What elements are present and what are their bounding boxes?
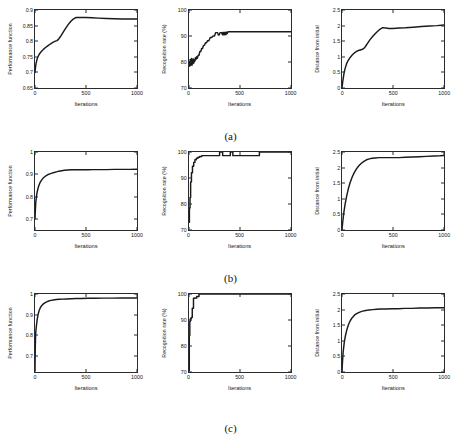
y-tick-label: 90 [181, 175, 187, 181]
y-tick-mark [35, 72, 38, 73]
y-tick-label: 0.5 [333, 69, 340, 75]
y-tick-mark [134, 72, 137, 73]
figure-row-b: 0.70.80.9105001000 Performance function … [0, 142, 461, 272]
x-tick-mark [290, 227, 291, 230]
x-tick-mark [35, 369, 36, 372]
y-tick-mark [134, 174, 137, 175]
x-axis-label-b3: Iterations [341, 243, 445, 249]
y-tick-mark [342, 309, 345, 310]
y-tick-label: 0.65 [23, 85, 33, 91]
plot-area-c1: 0.70.80.9105001000 [34, 293, 138, 373]
x-tick-mark [137, 152, 138, 155]
x-tick-label: 1000 [131, 374, 143, 380]
y-tick-mark [441, 25, 444, 26]
y-tick-label: 2 [337, 307, 340, 313]
y-axis-label-c1: Performance function [7, 293, 19, 373]
curve-svg-a1 [35, 10, 137, 88]
y-axis-label-a3: Distance from initial [314, 9, 326, 89]
x-tick-mark [137, 10, 138, 13]
x-tick-mark [35, 227, 36, 230]
x-tick-label: 1000 [285, 90, 297, 96]
x-axis-label-c3: Iterations [341, 385, 445, 391]
x-tick-mark [188, 152, 189, 155]
x-tick-mark [393, 10, 394, 13]
x-tick-mark [393, 227, 394, 230]
x-tick-label: 500 [82, 374, 91, 380]
y-tick-mark [35, 355, 38, 356]
x-tick-label: 1000 [131, 232, 143, 238]
x-tick-label: 0 [34, 90, 37, 96]
y-tick-label: 100 [178, 291, 187, 297]
y-tick-label: 1 [337, 196, 340, 202]
y-tick-mark [342, 340, 345, 341]
data-curve [35, 17, 137, 72]
y-tick-mark [342, 25, 345, 26]
data-curve [189, 32, 291, 66]
subplot-c1: 0.70.80.9105001000 Performance function … [0, 284, 154, 402]
x-tick-mark [188, 227, 189, 230]
x-tick-mark [342, 369, 343, 372]
x-tick-label: 1000 [438, 374, 450, 380]
y-tick-mark [288, 204, 291, 205]
y-tick-mark [134, 41, 137, 42]
y-tick-label: 100 [178, 7, 187, 13]
y-tick-label: 1 [30, 291, 33, 297]
x-axis-label-b1: Iterations [34, 243, 138, 249]
y-tick-mark [134, 56, 137, 57]
x-tick-mark [239, 369, 240, 372]
x-tick-mark [342, 294, 343, 297]
y-tick-label: 0.75 [23, 54, 33, 60]
y-tick-mark [441, 214, 444, 215]
x-tick-mark [290, 294, 291, 297]
x-tick-mark [239, 227, 240, 230]
subplot-a2: 70809010005001000 Recognition rate (%) I… [154, 0, 308, 118]
x-tick-label: 0 [341, 232, 344, 238]
y-tick-mark [342, 41, 345, 42]
y-tick-mark [441, 41, 444, 42]
y-tick-mark [189, 62, 192, 63]
x-tick-mark [188, 294, 189, 297]
x-tick-mark [239, 294, 240, 297]
y-tick-label: 2.5 [333, 149, 340, 155]
plot-area-b1: 0.70.80.9105001000 [34, 151, 138, 231]
y-tick-mark [134, 335, 137, 336]
x-tick-mark [35, 294, 36, 297]
plot-area-a1: 0.650.70.750.80.850.905001000 [34, 9, 138, 89]
y-tick-mark [189, 320, 192, 321]
x-tick-mark [342, 227, 343, 230]
y-tick-mark [134, 196, 137, 197]
subplot-b3: 00.511.522.505001000 Distance from initi… [307, 142, 461, 260]
y-tick-mark [189, 204, 192, 205]
curve-svg-b2 [189, 152, 291, 230]
x-tick-label: 500 [235, 232, 244, 238]
y-tick-label: 1.5 [333, 180, 340, 186]
x-tick-label: 500 [82, 232, 91, 238]
y-tick-mark [342, 167, 345, 168]
y-tick-label: 0.9 [26, 312, 33, 318]
y-tick-mark [288, 346, 291, 347]
x-tick-mark [239, 10, 240, 13]
x-tick-mark [86, 10, 87, 13]
y-tick-mark [342, 214, 345, 215]
x-tick-label: 500 [389, 90, 398, 96]
y-tick-mark [441, 340, 444, 341]
plot-area-c3: 00.511.522.505001000 [341, 293, 445, 373]
y-tick-mark [35, 196, 38, 197]
x-tick-mark [86, 294, 87, 297]
x-tick-mark [342, 85, 343, 88]
y-tick-mark [342, 198, 345, 199]
y-tick-label: 0.9 [26, 171, 33, 177]
y-tick-label: 100 [178, 149, 187, 155]
y-tick-label: 0.85 [23, 23, 33, 29]
x-axis-label-a2: Iterations [188, 101, 292, 107]
x-tick-mark [290, 369, 291, 372]
x-tick-label: 1000 [438, 232, 450, 238]
y-axis-label-b2: Recognition rate (%) [161, 151, 173, 231]
x-tick-mark [188, 369, 189, 372]
figure-row-a: 0.650.70.750.80.850.905001000 Performanc… [0, 0, 461, 130]
x-tick-mark [290, 152, 291, 155]
x-tick-mark [444, 227, 445, 230]
y-tick-label: 0.7 [26, 216, 33, 222]
x-axis-label-a1: Iterations [34, 101, 138, 107]
y-tick-mark [441, 183, 444, 184]
